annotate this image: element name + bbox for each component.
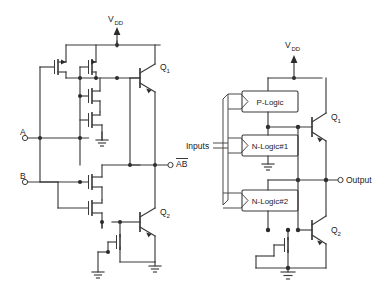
junction-dot-icon [78, 136, 82, 140]
ground-icon-right-nlogic1 [262, 164, 274, 170]
nmos-transistor-icon-n3 [89, 165, 103, 200]
ground-icon-left-lower2 [149, 266, 161, 272]
junction-dot-icon [100, 220, 104, 224]
output-terminal-right[interactable] [338, 177, 343, 182]
junction-dot-icon [286, 228, 290, 232]
ground-icon-right-main [281, 272, 295, 279]
ground-icon-left-lower1 [92, 272, 104, 278]
device-label-q2-left-sub: 2 [167, 213, 171, 219]
device-label-q2-right-sub: 2 [338, 231, 342, 237]
supply-label-right: V [285, 40, 291, 50]
supply-label-left-sub: DD [115, 20, 124, 26]
nmos-transistor-icon-n5 [108, 222, 120, 262]
junction-dot-icon [106, 250, 110, 254]
nmos-transistor-icon-n4 [58, 200, 102, 228]
ground-icon-left-upper [96, 140, 108, 146]
bjt-q2-right [298, 180, 326, 268]
output-label-left: AB [176, 159, 188, 169]
nmos-transistor-icon-n2 [80, 112, 102, 140]
output-label-right: Output [346, 175, 372, 185]
device-label-q1-left-sub: 1 [167, 68, 171, 74]
junction-dot-icon [115, 76, 119, 80]
input-label-a: A [20, 127, 26, 137]
nmos-transistor-icon-n1 [80, 78, 100, 112]
left-panel-bicmos-nand: Q 1 Q 2 [20, 14, 188, 278]
supply-label-left: V [108, 14, 114, 24]
junction-dot-icon [266, 228, 270, 232]
inputs-label-right: Inputs [186, 141, 209, 151]
junction-dot-icon [94, 76, 98, 80]
supply-arrow-icon-right [291, 55, 298, 78]
pmos-transistor-icon-m2 [80, 59, 96, 78]
bjt-q1-right [312, 78, 326, 180]
bjt-q1-left [130, 45, 155, 165]
input-label-b: B [20, 171, 26, 181]
output-terminal-left[interactable] [168, 162, 173, 167]
block-label-n-logic-1: N-Logic#1 [252, 142, 289, 151]
junction-dot-icon [78, 94, 82, 98]
circuit-schematic-svg: Q 1 Q 2 [0, 0, 379, 296]
nmos-transistor-icon-right [274, 230, 288, 268]
device-label-q1-right-sub: 1 [338, 118, 342, 124]
pmos-transistor-icon-m1 [40, 59, 66, 78]
bjt-q2-left [112, 165, 155, 262]
supply-label-right-sub: DD [292, 46, 301, 52]
block-label-p-logic: P-Logic [256, 98, 283, 107]
figure-canvas: Q 1 Q 2 [0, 0, 379, 296]
junction-dot-icon [78, 180, 82, 184]
block-label-n-logic-2: N-Logic#2 [252, 197, 289, 206]
right-panel-bicmos-block: V DD P-Logic N-Logic#1 [186, 40, 372, 279]
